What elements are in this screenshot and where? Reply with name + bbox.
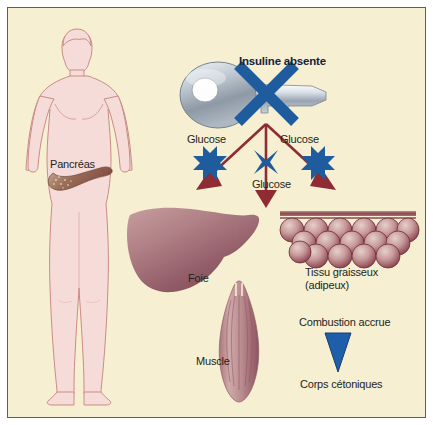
triangle-down-icon (325, 333, 351, 372)
label-corps-cetoniques: Corps cétoniques (300, 378, 382, 391)
label-glucose-middle: Glucose (252, 178, 291, 191)
key-icon (180, 62, 326, 128)
label-tissu-graisseux: Tissu graisseux (305, 266, 378, 279)
human-figure (26, 29, 132, 405)
label-tissu-adipeux: (adipeux) (305, 279, 349, 292)
fat-tissue-organ (280, 211, 419, 268)
label-foie: Foie (188, 272, 209, 285)
label-muscle: Muscle (196, 355, 230, 368)
label-glucose-left: Glucose (187, 133, 226, 146)
diabetes-diagram-figure: Pancréas Insuline absente Glucose Glucos… (0, 0, 433, 425)
label-combustion-accrue: Combustion accrue (299, 316, 390, 329)
label-glucose-right: Glucose (280, 133, 319, 146)
label-insuline-absente: Insuline absente (239, 55, 326, 68)
label-pancreas: Pancréas (50, 158, 95, 171)
muscle-organ (219, 281, 259, 402)
